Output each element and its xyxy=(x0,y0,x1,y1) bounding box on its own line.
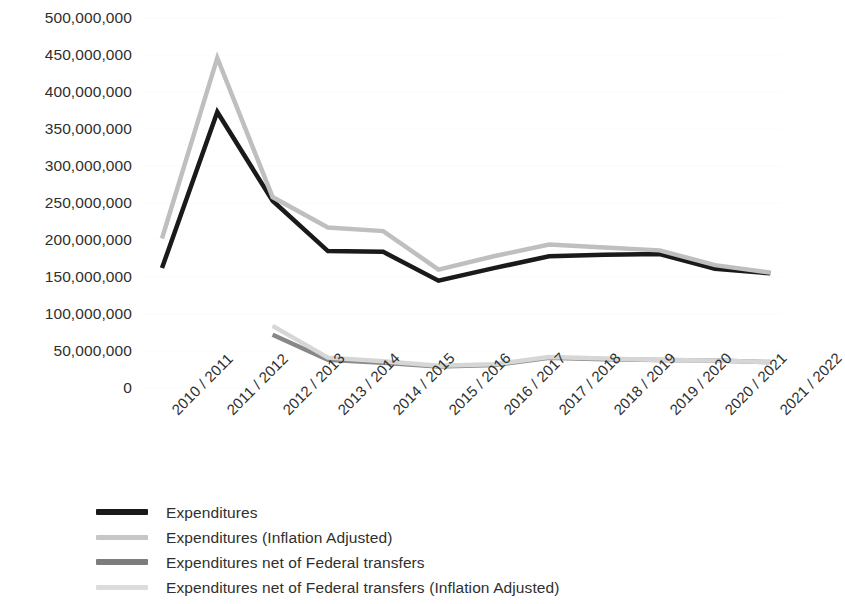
x-axis-tick-label: 2013 / 2014 xyxy=(334,406,346,418)
legend-item[interactable]: Expenditures (Inflation Adjusted) xyxy=(96,525,392,549)
y-axis-tick-label: 250,000,000 xyxy=(45,195,132,211)
legend-label: Expenditures net of Federal transfers (I… xyxy=(166,578,560,597)
legend-label: Expenditures (Inflation Adjusted) xyxy=(166,528,392,547)
x-axis-tick-label: 2021 / 2022 xyxy=(776,406,788,418)
x-axis: 2010 / 20112011 / 20122012 / 20132013 / … xyxy=(0,392,782,497)
y-axis: 500,000,000450,000,000400,000,000350,000… xyxy=(0,0,140,400)
legend-color-swatch xyxy=(96,559,148,565)
y-axis-tick-label: 500,000,000 xyxy=(45,10,132,26)
chart-lines xyxy=(140,0,782,400)
chart-legend: ExpendituresExpenditures (Inflation Adju… xyxy=(96,500,782,604)
x-axis-tick-label: 2012 / 2013 xyxy=(279,406,291,418)
x-axis-tick-label: 2014 / 2015 xyxy=(389,406,401,418)
y-axis-tick-label: 450,000,000 xyxy=(45,47,132,63)
legend-item[interactable]: Expenditures net of Federal transfers (I… xyxy=(96,575,560,599)
x-axis-tick-label: 2020 / 2021 xyxy=(721,406,733,418)
y-axis-tick-label: 50,000,000 xyxy=(53,343,132,359)
x-axis-tick-label: 2015 / 2016 xyxy=(445,406,457,418)
legend-label: Expenditures net of Federal transfers xyxy=(166,553,425,572)
x-axis-tick-label: 2019 / 2020 xyxy=(666,406,678,418)
y-axis-tick-label: 400,000,000 xyxy=(45,84,132,100)
y-axis-tick-label: 350,000,000 xyxy=(45,121,132,137)
legend-label: Expenditures xyxy=(166,503,258,522)
y-axis-tick-label: 100,000,000 xyxy=(45,306,132,322)
x-axis-tick-label: 2016 / 2017 xyxy=(500,406,512,418)
legend-item[interactable]: Expenditures xyxy=(96,500,258,524)
x-axis-tick-label: 2011 / 2012 xyxy=(223,406,235,418)
y-axis-tick-label: 200,000,000 xyxy=(45,232,132,248)
y-axis-tick-label: 300,000,000 xyxy=(45,158,132,174)
legend-color-swatch xyxy=(96,509,148,515)
x-axis-tick-label: 2018 / 2019 xyxy=(610,406,622,418)
legend-color-swatch xyxy=(96,535,148,540)
legend-color-swatch xyxy=(96,585,148,590)
series-line xyxy=(273,326,771,366)
plot-area xyxy=(140,0,782,400)
legend-item[interactable]: Expenditures net of Federal transfers xyxy=(96,550,425,574)
y-axis-tick-label: 150,000,000 xyxy=(45,269,132,285)
x-axis-tick-label: 2017 / 2018 xyxy=(555,406,567,418)
x-axis-tick-label: 2010 / 2011 xyxy=(168,406,180,418)
